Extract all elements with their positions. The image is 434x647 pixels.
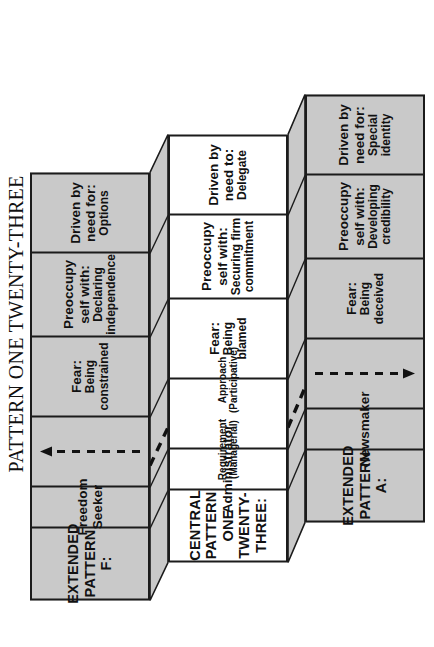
panel-a-driven-label: Driven by need for: bbox=[336, 97, 366, 172]
panel-f-fear-label: Fear: bbox=[69, 360, 84, 393]
panel-a-fear-value: Being deceived bbox=[359, 260, 386, 336]
diagram-stage: PATTERN ONE TWENTY-THREE Extended Interp… bbox=[0, 0, 434, 647]
central-fear-value: Being blamed bbox=[222, 300, 249, 376]
panel-a-preoccupy-label: Preoccupy self with: bbox=[336, 176, 366, 256]
panel-f-preoccupy-value: Declaring independence bbox=[92, 254, 119, 335]
cell-arrow-pattern-f bbox=[32, 415, 148, 485]
central-requirement-label: Requirement bbox=[217, 419, 228, 480]
cell-preoccupy-pattern-f: Preoccupy self with: Declaring independe… bbox=[32, 251, 148, 335]
panel-f-driven-value: Options bbox=[98, 190, 111, 235]
central-fear-label: Fear: bbox=[207, 322, 222, 355]
panel-f-header-line2: PATTERN F: bbox=[82, 529, 115, 597]
panel-f-role: Freedom Seeker bbox=[75, 478, 105, 535]
panel-extended-pattern-f: EXTENDED PATTERN F: Freedom Seeker Fear:… bbox=[30, 172, 150, 600]
cell-requirement-approach-central: Requirement (Managerial) Approach (Parti… bbox=[170, 377, 286, 447]
cell-role-pattern-a: Newsmaker bbox=[307, 407, 423, 448]
dashed-arrow-down-icon bbox=[313, 365, 417, 381]
cell-preoccupy-central: Preoccupy self with: Securing firm commi… bbox=[170, 213, 286, 297]
panel-f-driven-label: Driven by need for: bbox=[68, 175, 98, 250]
central-header-line1: CENTRAL PATTERN bbox=[187, 490, 220, 560]
panel-central-pattern: CENTRAL PATTERN ONE TWENTY-THREE: Admini… bbox=[168, 134, 288, 562]
central-driven-value: Delegate bbox=[236, 149, 249, 199]
panel-a-header-line1: EXTENDED bbox=[340, 445, 357, 526]
cell-driven-central: Driven by need to: Delegate bbox=[170, 136, 286, 213]
cell-header-pattern-f: EXTENDED PATTERN F: bbox=[32, 526, 148, 598]
central-preoccupy-value: Securing firm commitment bbox=[230, 216, 257, 296]
requirement-group: Requirement (Managerial) bbox=[217, 419, 239, 480]
cell-preoccupy-pattern-a: Preoccupy self with: Developing credibil… bbox=[307, 173, 423, 257]
central-driven-label: Driven by need to: bbox=[206, 137, 236, 212]
panel-f-preoccupy-label: Preoccupy self with: bbox=[61, 254, 91, 334]
panel-a-preoccupy-value: Developing credibility bbox=[367, 176, 394, 256]
panel-a-fear-label: Fear: bbox=[344, 282, 359, 315]
cell-role-pattern-f: Freedom Seeker bbox=[32, 485, 148, 526]
cell-fear-pattern-f: Fear: Being constrained bbox=[32, 335, 148, 415]
dashed-arrow-up-icon bbox=[38, 443, 142, 459]
cell-fear-pattern-a: Fear: Being deceived bbox=[307, 257, 423, 337]
panel-a-driven-value: Special identity bbox=[367, 97, 394, 172]
cell-driven-pattern-f: Driven by need for: Options bbox=[32, 174, 148, 251]
cell-fear-central: Fear: Being blamed bbox=[170, 297, 286, 377]
central-preoccupy-label: Preoccupy self with: bbox=[199, 216, 229, 296]
panel-extended-pattern-a: EXTENDED PATTERN A: Newsmaker Fear: Bein… bbox=[305, 94, 425, 522]
panel-f-fear-value: Being constrained bbox=[84, 338, 111, 414]
central-requirement-value: (Managerial) bbox=[228, 420, 239, 479]
page-title: PATTERN ONE TWENTY-THREE bbox=[5, 0, 28, 647]
cell-arrow-pattern-a bbox=[307, 337, 423, 407]
cell-driven-pattern-a: Driven by need for: Special identity bbox=[307, 96, 423, 173]
